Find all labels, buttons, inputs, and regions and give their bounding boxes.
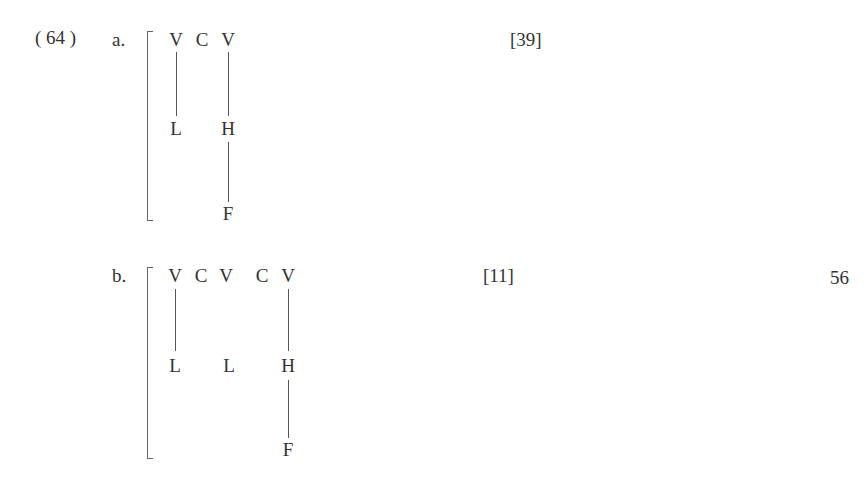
tone-l: L [166,119,186,139]
tone-h: H [218,119,238,139]
segment-v: V [278,266,298,286]
association-line [228,52,229,116]
segment-v: V [166,30,186,50]
example-number: ( 64 ) [35,28,76,48]
segment-c: C [252,266,272,286]
floating-tone-f: F [278,440,298,460]
association-line [175,289,176,351]
segment-c: C [191,266,211,286]
example-a-label: a. [112,30,125,50]
segment-c: C [192,30,212,50]
example-a-reference: [39] [510,30,542,50]
example-b-label: b. [112,266,126,286]
segment-v: V [165,266,185,286]
segment-v: V [216,266,236,286]
association-line [288,289,289,351]
example-b-reference: [11] [483,266,514,286]
segment-v: V [218,30,238,50]
page-number: 56 [830,268,849,288]
tone-l: L [219,356,239,376]
association-line [288,380,289,438]
example-b-bracket [147,267,153,459]
association-line [228,142,229,202]
floating-tone-f: F [218,204,238,224]
tone-h: H [278,356,298,376]
association-line [176,52,177,116]
example-a-bracket [147,31,153,221]
tone-l: L [165,356,185,376]
